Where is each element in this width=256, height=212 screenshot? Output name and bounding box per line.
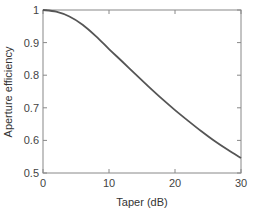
x-tick-label: 10: [103, 177, 115, 189]
efficiency-curve: [43, 10, 241, 158]
plot-frame: [43, 10, 241, 173]
y-tick-label: 0.5: [24, 167, 39, 179]
y-tick-label: 0.9: [24, 37, 39, 49]
y-tick-label: 0.6: [24, 134, 39, 146]
y-tick-label: 0.7: [24, 102, 39, 114]
x-tick-label: 20: [169, 177, 181, 189]
plot-border: [43, 10, 241, 173]
y-axis-label: Aperture efficiency: [2, 46, 14, 137]
y-tick-label: 1: [33, 4, 39, 16]
x-tick-label: 30: [235, 177, 247, 189]
axis-ticks: 01020300.50.60.70.80.91: [24, 4, 247, 189]
x-tick-label: 0: [40, 177, 46, 189]
x-axis-label: Taper (dB): [116, 196, 167, 208]
aperture-efficiency-chart: 01020300.50.60.70.80.91 Taper (dB) Apert…: [0, 0, 256, 212]
y-tick-label: 0.8: [24, 69, 39, 81]
data-series: [43, 10, 241, 158]
